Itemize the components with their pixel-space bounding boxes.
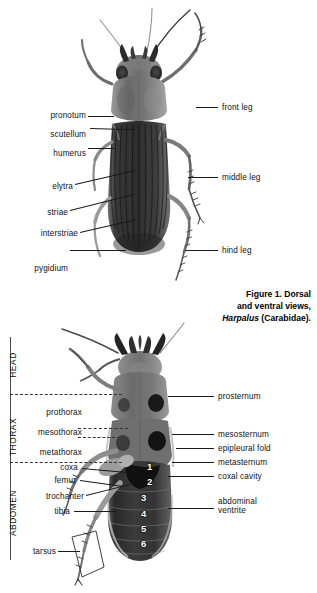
label-middle-leg: middle leg xyxy=(222,173,261,183)
leader-middle-leg xyxy=(188,177,218,178)
leader-tarsus xyxy=(58,551,80,552)
label-interstriae: interstriae xyxy=(8,229,78,239)
figure-plate: pronotum scutellum humerus elytra striae… xyxy=(0,0,317,593)
divider-mesothorax-2 xyxy=(78,437,120,438)
label-coxa: coxa xyxy=(20,463,78,473)
leader-metasternum xyxy=(172,462,214,463)
label-metasternum: metasternum xyxy=(218,458,267,468)
label-pygidium: pygidium xyxy=(8,264,68,274)
label-hind-leg: hind leg xyxy=(222,246,252,256)
label-femur: femur xyxy=(20,476,76,486)
ventrite-number-2: 2 xyxy=(147,476,152,487)
leader-pygidium-tip xyxy=(112,250,126,251)
label-trochanter: trochanter xyxy=(12,492,84,502)
leader-front-leg xyxy=(196,107,218,108)
label-coxal-cavity: coxal cavity xyxy=(218,472,262,482)
leader-mesosternum xyxy=(172,434,214,435)
ventrite-number-6: 6 xyxy=(141,538,146,549)
leader-humerus xyxy=(88,148,114,149)
label-tibia: tibia xyxy=(20,507,70,517)
label-humerus: humerus xyxy=(8,149,86,159)
leader-prosternum xyxy=(168,396,214,397)
label-epipleural-fold: epipleural fold xyxy=(218,444,271,454)
ventrite-number-3: 3 xyxy=(141,492,146,503)
leader-pygidium xyxy=(70,250,115,251)
label-mesosternum: mesosternum xyxy=(218,430,269,440)
label-front-leg: front leg xyxy=(222,103,253,113)
ventrite-number-1: 1 xyxy=(147,461,152,472)
label-pronotum: pronotum xyxy=(8,111,86,121)
leader-coxal-cavity xyxy=(168,476,214,477)
divider-mesothorax xyxy=(78,428,128,429)
caption-line-2: and ventral views, xyxy=(237,301,311,311)
label-scutellum: scutellum xyxy=(8,130,86,140)
leader-epipleural-fold xyxy=(176,448,214,449)
label-elytra: elytra xyxy=(8,182,73,192)
ventrite-number-5: 5 xyxy=(141,523,146,534)
leader-abdominal-ventrite xyxy=(168,508,214,509)
label-metathorax: metathorax xyxy=(12,448,82,458)
region-label-head: HEAD xyxy=(8,346,18,384)
label-tarsus: tarsus xyxy=(12,547,56,557)
divider-head-thorax xyxy=(10,394,122,395)
caption-line-1: Figure 1. Dorsal xyxy=(246,289,311,299)
leader-pronotum xyxy=(88,116,114,117)
ventrite-number-4: 4 xyxy=(141,508,146,519)
label-mesothorax: mesothorax xyxy=(12,428,82,438)
leader-tibia xyxy=(74,511,116,512)
label-prosternum: prosternum xyxy=(218,392,261,402)
label-abdominal-ventrite: abdominal ventrite xyxy=(218,497,278,516)
label-prothorax: prothorax xyxy=(20,408,82,418)
label-striae: striae xyxy=(8,208,68,218)
leader-hind-leg xyxy=(185,250,218,251)
